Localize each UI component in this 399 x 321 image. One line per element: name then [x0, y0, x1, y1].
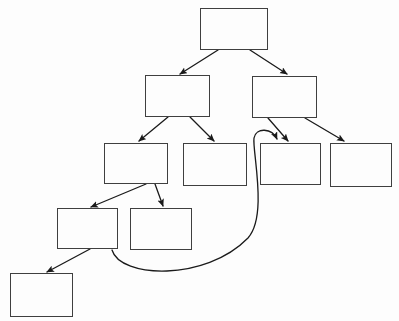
node-box-n7[interactable] — [330, 143, 392, 187]
node-label-n1 — [232, 28, 236, 30]
node-label-n5 — [213, 164, 217, 166]
node-box-n6[interactable] — [260, 143, 321, 185]
connector-arrow-n3-to-n6 — [268, 118, 288, 141]
node-label-n9 — [159, 228, 163, 230]
node-label-n7 — [359, 164, 363, 166]
node-label-n6 — [289, 163, 293, 165]
diagram-canvas — [0, 0, 399, 321]
node-box-n9[interactable] — [130, 208, 192, 250]
node-label-n10 — [40, 294, 44, 296]
connector-arrow-n2-to-n4 — [139, 117, 168, 141]
node-box-n2[interactable] — [145, 75, 210, 117]
node-box-n5[interactable] — [183, 143, 247, 186]
node-box-n8[interactable] — [57, 208, 118, 249]
node-box-n10[interactable] — [10, 273, 73, 317]
node-label-n4 — [134, 163, 138, 165]
connector-arrow-n8-to-n10 — [47, 249, 90, 272]
connector-arrow-n3-to-n7 — [305, 118, 344, 141]
node-box-n4[interactable] — [104, 143, 168, 184]
connector-arrow-n1-to-n3 — [250, 50, 287, 74]
connector-arrow-n1-to-n2 — [180, 50, 218, 74]
node-label-n8 — [86, 228, 90, 230]
connector-arrow-n4-to-n9 — [155, 184, 163, 206]
node-box-n3[interactable] — [252, 76, 317, 118]
node-label-n3 — [283, 96, 287, 98]
connector-arrow-n2-to-n5 — [190, 117, 214, 141]
node-box-n1[interactable] — [200, 8, 268, 50]
connector-arrow-n4-to-n8 — [91, 184, 146, 207]
node-label-n2 — [176, 95, 180, 97]
